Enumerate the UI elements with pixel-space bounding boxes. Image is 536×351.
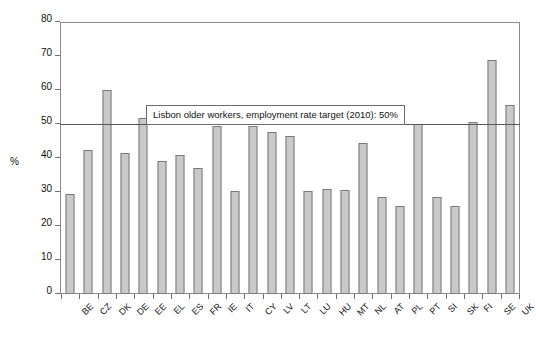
- y-tick-label: 70: [41, 48, 52, 58]
- x-tick-mark: [299, 294, 300, 299]
- y-tick-mark: [55, 259, 60, 260]
- x-tick-label: EL: [172, 302, 186, 316]
- bar-slot: [134, 22, 152, 294]
- bar: [469, 122, 478, 294]
- bar: [84, 150, 93, 294]
- bar-slot: [336, 22, 354, 294]
- x-tick-label: FI: [483, 302, 495, 314]
- bar: [176, 155, 185, 294]
- y-axis: 01020304050607080: [0, 22, 60, 294]
- x-tick-label: BE: [81, 302, 96, 317]
- x-tick-label: PT: [429, 302, 444, 317]
- x-tick-mark: [409, 294, 410, 299]
- x-tick-mark: [244, 294, 245, 299]
- bar-slot: [61, 22, 79, 294]
- x-tick-mark: [501, 294, 502, 299]
- bar-slot: [263, 22, 281, 294]
- y-tick-mark: [55, 225, 60, 226]
- x-tick-mark: [263, 294, 264, 299]
- bar: [157, 161, 166, 294]
- bar: [285, 136, 294, 294]
- bar-slot: [189, 22, 207, 294]
- x-tick-mark: [171, 294, 172, 299]
- bar: [359, 143, 368, 294]
- bar: [432, 197, 441, 294]
- bar-slot: [409, 22, 427, 294]
- x-tick-label: PL: [410, 302, 424, 316]
- bar: [231, 191, 240, 294]
- y-tick-mark: [55, 21, 60, 22]
- bar-slot: [79, 22, 97, 294]
- bar: [505, 105, 514, 294]
- bar: [322, 189, 331, 294]
- bar-slot: [208, 22, 226, 294]
- bar-slot: [501, 22, 519, 294]
- bar-slot: [372, 22, 390, 294]
- bar-slot: [116, 22, 134, 294]
- bar: [395, 206, 404, 294]
- x-tick-mark: [134, 294, 135, 299]
- bar-slot: [171, 22, 189, 294]
- bar: [66, 194, 75, 294]
- lisbon-target-callout: Lisbon older workers, employment rate ta…: [146, 105, 405, 125]
- x-tick-mark: [153, 294, 154, 299]
- x-tick-label: HU: [337, 302, 353, 318]
- x-tick-mark: [79, 294, 80, 299]
- y-axis-title: %: [10, 157, 19, 167]
- bar: [212, 126, 221, 294]
- bar: [139, 118, 148, 294]
- x-tick-label: SE: [502, 302, 517, 317]
- bar: [267, 132, 276, 294]
- bar: [194, 168, 203, 294]
- x-tick-mark: [336, 294, 337, 299]
- y-tick-mark: [55, 55, 60, 56]
- x-tick-mark: [281, 294, 282, 299]
- x-tick-mark: [464, 294, 465, 299]
- x-axis-labels: BECZDKDEEEELESFRIEITCYLVLTLUHUMTNLATPLPT…: [61, 300, 519, 340]
- bar: [249, 126, 258, 294]
- x-tick-label: EE: [154, 302, 169, 317]
- bar-slot: [153, 22, 171, 294]
- x-tick-label: CY: [264, 302, 279, 317]
- x-tick-mark: [391, 294, 392, 299]
- x-tick-mark: [98, 294, 99, 299]
- x-tick-label: AT: [392, 302, 406, 316]
- x-tick-label: IT: [244, 302, 256, 314]
- bar: [450, 206, 459, 294]
- y-tick-label: 60: [41, 82, 52, 92]
- x-tick-label: CZ: [99, 302, 114, 317]
- bar: [377, 197, 386, 294]
- bar-slot: [427, 22, 445, 294]
- y-tick-mark: [55, 191, 60, 192]
- x-tick-mark: [446, 294, 447, 299]
- x-tick-label: LV: [282, 302, 296, 316]
- bar-slot: [281, 22, 299, 294]
- bar: [102, 90, 111, 294]
- x-tick-label: DK: [117, 302, 132, 317]
- y-tick-label: 50: [41, 116, 52, 126]
- x-tick-mark: [372, 294, 373, 299]
- x-tick-label: UK: [520, 302, 535, 317]
- bar-slot: [244, 22, 262, 294]
- x-tick-mark: [317, 294, 318, 299]
- x-tick-mark: [208, 294, 209, 299]
- x-tick-mark: [354, 294, 355, 299]
- x-tick-label: ES: [191, 302, 206, 317]
- x-tick-label: DE: [136, 302, 151, 317]
- y-tick-label: 40: [41, 150, 52, 160]
- x-tick-label: FR: [209, 302, 224, 317]
- x-tick-mark: [61, 294, 62, 299]
- bar: [304, 191, 313, 294]
- x-tick-mark: [116, 294, 117, 299]
- bar-slot: [354, 22, 372, 294]
- x-tick-mark: [482, 294, 483, 299]
- x-tick-mark: [226, 294, 227, 299]
- y-tick-label: 0: [46, 286, 52, 296]
- x-tick-label: LT: [300, 302, 313, 315]
- x-tick-label: SK: [465, 302, 480, 317]
- x-tick-label: LU: [319, 302, 334, 317]
- y-tick-label: 30: [41, 184, 52, 194]
- y-tick-label: 20: [41, 218, 52, 228]
- x-tick-label: SI: [446, 302, 458, 314]
